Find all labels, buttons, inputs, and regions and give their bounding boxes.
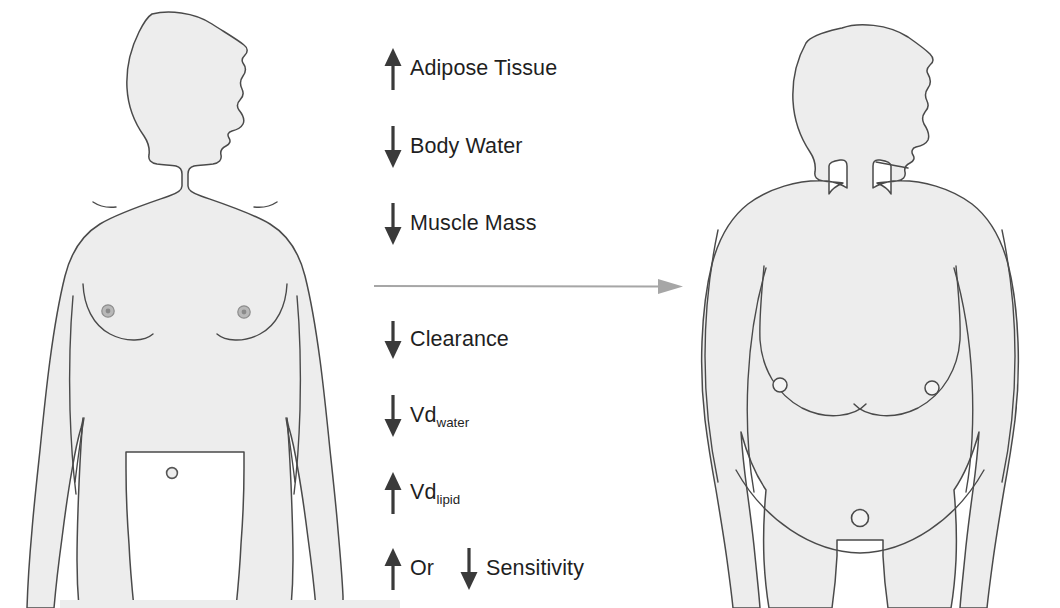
change-row-clearance: Clearance bbox=[376, 317, 509, 363]
vd-water-subscript: water bbox=[437, 415, 470, 430]
obese-male-silhouette bbox=[660, 0, 1060, 608]
arrow-up-icon bbox=[376, 546, 410, 592]
vd-lipid-base: Vd bbox=[410, 480, 437, 504]
obesity-physiology-figure: Adipose Tissue Body Water Muscle Mass bbox=[0, 0, 1060, 608]
arrow-down-icon bbox=[452, 546, 486, 592]
nipple-left bbox=[773, 378, 787, 392]
change-label-conjunction: Or bbox=[410, 558, 434, 580]
bottom-bar bbox=[60, 600, 400, 608]
physiologic-change-list: Adipose Tissue Body Water Muscle Mass bbox=[376, 0, 666, 608]
nipple-right bbox=[925, 381, 939, 395]
change-label-sensitivity: Sensitivity bbox=[486, 558, 584, 580]
arrow-down-icon bbox=[376, 201, 410, 247]
change-label-vd-water: Vdwater bbox=[410, 405, 469, 427]
change-label-clearance: Clearance bbox=[410, 329, 509, 351]
change-row-sensitivity: Or Sensitivity bbox=[376, 546, 584, 592]
change-row-vd-lipid: Vdlipid bbox=[376, 470, 460, 516]
arrow-down-icon bbox=[376, 124, 410, 170]
vd-lipid-subscript: lipid bbox=[437, 492, 461, 507]
change-row-vd-water: Vdwater bbox=[376, 393, 469, 439]
arrow-down-icon bbox=[376, 317, 410, 363]
change-label-body-water: Body Water bbox=[410, 136, 523, 158]
change-row-adipose: Adipose Tissue bbox=[376, 46, 557, 92]
nipple-left bbox=[102, 305, 114, 317]
vd-water-base: Vd bbox=[410, 403, 437, 427]
arrow-down-icon bbox=[376, 393, 410, 439]
change-row-muscle-mass: Muscle Mass bbox=[376, 201, 537, 247]
arrow-up-icon bbox=[376, 46, 410, 92]
navel bbox=[852, 510, 869, 527]
change-label-adipose: Adipose Tissue bbox=[410, 58, 557, 80]
navel bbox=[167, 468, 178, 479]
arrow-up-icon bbox=[376, 470, 410, 516]
lean-male-silhouette bbox=[0, 0, 370, 608]
change-label-muscle-mass: Muscle Mass bbox=[410, 213, 537, 235]
nipple-right bbox=[238, 306, 250, 318]
change-row-body-water: Body Water bbox=[376, 124, 523, 170]
change-label-vd-lipid: Vdlipid bbox=[410, 482, 460, 504]
